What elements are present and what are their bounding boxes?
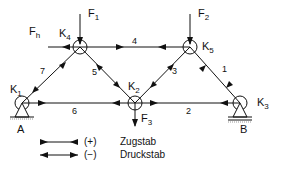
legend-compression-label: Druckstab	[120, 150, 165, 160]
truss-drawing	[0, 0, 283, 173]
force-label-f1: F1	[88, 8, 99, 22]
member-label-1: 1	[222, 65, 227, 74]
member-label-7: 7	[40, 67, 45, 76]
member-label-2: 2	[186, 107, 191, 116]
force-label-f2: F2	[198, 8, 209, 22]
node-label-k4: K4	[59, 28, 71, 42]
legend-tension-sign: (+)	[84, 137, 97, 147]
support-label-a: A	[17, 124, 24, 135]
support-label-b: B	[240, 124, 247, 135]
node-label-k1: K1	[10, 84, 22, 98]
force-label-f3: F3	[141, 113, 152, 127]
member-7	[22, 47, 80, 103]
legend-compression-sign: (−)	[84, 150, 97, 160]
member-label-5: 5	[92, 68, 97, 77]
member-label-6: 6	[72, 107, 77, 116]
force-label-fh: Fh	[29, 26, 40, 40]
node-label-k2: K2	[128, 81, 140, 95]
legend-tension-label: Zugstab	[120, 137, 156, 147]
member-5	[80, 47, 135, 103]
member-label-3: 3	[172, 67, 177, 76]
node-label-k5: K5	[202, 41, 214, 55]
member-1	[190, 47, 240, 103]
member-label-4: 4	[132, 37, 137, 46]
node-label-k3: K3	[257, 97, 269, 111]
member-3	[135, 47, 190, 103]
